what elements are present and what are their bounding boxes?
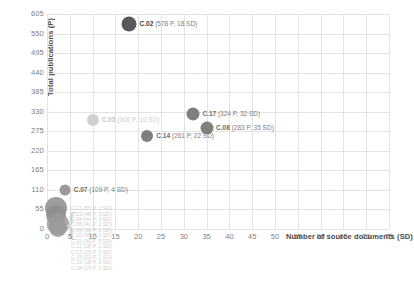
y-tick-label: 220 bbox=[10, 147, 44, 155]
y-tick-label: 165 bbox=[10, 166, 44, 174]
data-point-label-c-08: C.08 (283 P, 35 SD) bbox=[216, 124, 274, 132]
data-point-label-name: C.14 bbox=[156, 132, 172, 139]
gridline-horizontal bbox=[47, 14, 389, 15]
x-axis-title: Number of source documents (SD) bbox=[286, 232, 413, 241]
data-point-label-name: C.07 bbox=[74, 186, 90, 193]
y-tick-label: 440 bbox=[10, 69, 44, 77]
data-point-c-02[interactable] bbox=[122, 16, 137, 31]
x-tick-label: 5 bbox=[61, 232, 79, 241]
data-point-label-detail: (578 P, 18 SD) bbox=[155, 20, 197, 27]
x-tick-label: 0 bbox=[38, 232, 56, 241]
data-point-label-c-05: C.05 (306 P, 10 SD) bbox=[102, 116, 160, 124]
x-tick-label: 50 bbox=[266, 232, 284, 241]
data-point-label-c-02: C.02 (578 P, 18 SD) bbox=[140, 20, 198, 28]
x-tick-label: 20 bbox=[129, 232, 147, 241]
gridline-vertical bbox=[184, 14, 185, 229]
gridline-horizontal bbox=[47, 151, 389, 152]
data-point-c-14[interactable] bbox=[141, 130, 153, 142]
y-tick-label: 550 bbox=[10, 30, 44, 38]
data-point-c-17[interactable] bbox=[186, 107, 199, 120]
data-point-label-name: C.05 bbox=[102, 116, 118, 123]
data-point-label-c-14: C.14 (261 P, 22 SD) bbox=[156, 132, 214, 140]
gridline-vertical bbox=[161, 14, 162, 229]
data-point-label-name: C.02 bbox=[140, 20, 156, 27]
y-tick-label: 495 bbox=[10, 49, 44, 57]
data-point-label-c-17: C.17 (324 P, 32 SD) bbox=[202, 110, 260, 118]
gridline-horizontal bbox=[47, 170, 389, 171]
data-point-label-name: C.08 bbox=[216, 124, 232, 131]
y-tick-label: 275 bbox=[10, 127, 44, 135]
cluster-label-item: C.18 (15 P, 2 SD) bbox=[71, 266, 112, 271]
data-point-label-detail: (283 P, 35 SD) bbox=[232, 124, 274, 131]
gridline-vertical bbox=[298, 14, 299, 229]
data-point-label-detail: (109 P, 4 SD) bbox=[89, 186, 128, 193]
gridline-vertical bbox=[70, 14, 71, 229]
x-tick-label: 30 bbox=[175, 232, 193, 241]
data-point-label-name: C.17 bbox=[202, 110, 218, 117]
x-tick-label: 40 bbox=[220, 232, 238, 241]
gridline-horizontal bbox=[47, 53, 389, 54]
data-point-label-c-07: C.07 (109 P, 4 SD) bbox=[74, 186, 128, 194]
y-tick-label: 55 bbox=[10, 205, 44, 213]
data-point-c-07[interactable] bbox=[60, 185, 71, 196]
gridline-vertical bbox=[252, 14, 253, 229]
y-axis-title: Total publications (P) bbox=[0, 0, 3, 18]
x-tick-label: 10 bbox=[84, 232, 102, 241]
gridline-vertical bbox=[366, 14, 367, 229]
x-tick-label: 25 bbox=[152, 232, 170, 241]
x-tick-label: 35 bbox=[198, 232, 216, 241]
plot-area: C.02 (578 P, 18 SD)C.17 (324 P, 32 SD)C.… bbox=[47, 14, 389, 229]
y-axis-ticks: 055110165220275330385440495550605 bbox=[4, 14, 44, 229]
gridline-vertical bbox=[389, 14, 390, 229]
data-point-c-05[interactable] bbox=[87, 114, 99, 126]
y-tick-label: 110 bbox=[10, 186, 44, 194]
data-point-label-detail: (261 P, 22 SD) bbox=[172, 132, 214, 139]
data-point-label-detail: (324 P, 32 SD) bbox=[218, 110, 260, 117]
gridline-vertical bbox=[343, 14, 344, 229]
gridline-horizontal bbox=[47, 34, 389, 35]
gridline-vertical bbox=[321, 14, 322, 229]
x-tick-label: 45 bbox=[243, 232, 261, 241]
scatter-chart: Total publications (P) 05511016522027533… bbox=[0, 0, 414, 287]
y-tick-label: 605 bbox=[10, 10, 44, 18]
gridline-horizontal bbox=[47, 92, 389, 93]
gridline-vertical bbox=[275, 14, 276, 229]
gridline-vertical bbox=[47, 14, 48, 229]
gridline-horizontal bbox=[47, 73, 389, 74]
y-tick-label: 385 bbox=[10, 88, 44, 96]
data-point-label-detail: (306 P, 10 SD) bbox=[117, 116, 159, 123]
gridline-vertical bbox=[229, 14, 230, 229]
y-tick-label: 330 bbox=[10, 108, 44, 116]
x-tick-label: 15 bbox=[106, 232, 124, 241]
